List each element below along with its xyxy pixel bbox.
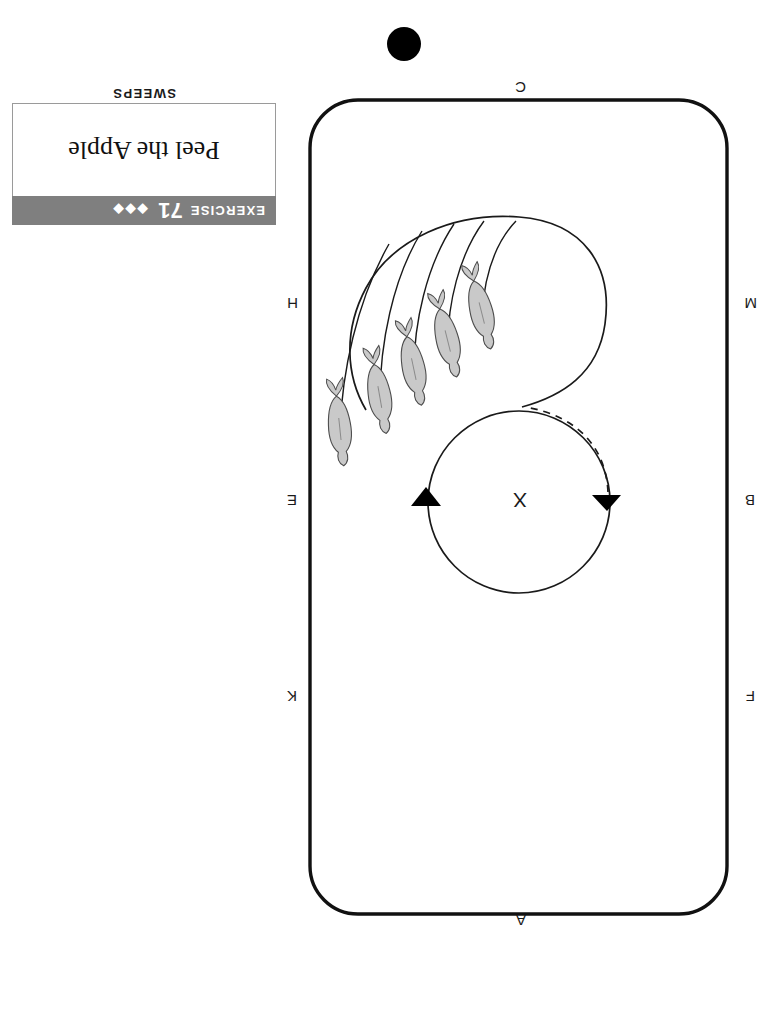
section-label: SWEEPS: [12, 86, 276, 101]
arena-letter-k: K: [286, 689, 297, 704]
rider-5: [323, 377, 355, 467]
arena-letter-e: E: [286, 493, 297, 508]
exercise-number: 71: [158, 200, 182, 222]
difficulty-diamonds-icon: ◆◆◆: [112, 204, 148, 218]
arena-letter-f: F: [745, 689, 755, 704]
exercise-title-box: Peel the Apple: [12, 103, 276, 196]
arena-letter-h: H: [287, 296, 298, 311]
arrow-head-left: [592, 495, 621, 511]
rider-1: [459, 261, 502, 352]
arena-letter-m: M: [744, 296, 757, 311]
exercise-label: EXERCISE: [190, 203, 265, 218]
exercise-caption-card: EXERCISE 71 ◆◆◆ Peel the Apple: [12, 103, 276, 225]
arena-letter-c: C: [515, 80, 526, 95]
page-marker-dot: [387, 27, 421, 61]
rider-3: [392, 317, 432, 408]
dressage-arena: X A F B M C H E K: [254, 0, 784, 1014]
arena-letter-a: A: [515, 913, 526, 928]
arrow-head-right: [411, 487, 441, 506]
exercise-title: Peel the Apple: [68, 135, 220, 165]
rider-2: [425, 289, 468, 380]
dashed-return-path: [525, 407, 608, 492]
page-canvas: X A F B M C H E K EXERCISE 71 ◆◆◆ Peel t…: [0, 0, 784, 1014]
exercise-banner: EXERCISE 71 ◆◆◆: [12, 196, 276, 225]
arena-center-marker: X: [513, 490, 527, 511]
rider-4: [360, 345, 397, 436]
arena-letter-b: B: [744, 493, 755, 508]
